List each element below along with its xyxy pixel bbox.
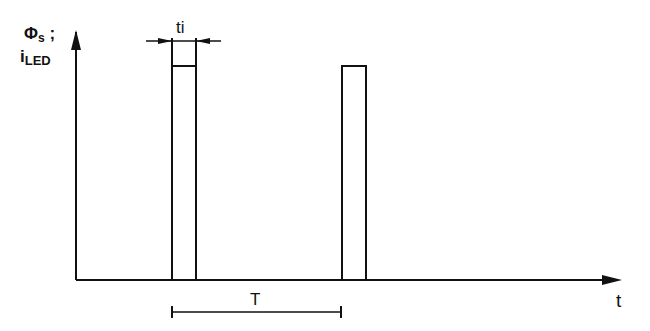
y-axis-label-current: iLED	[20, 47, 51, 67]
y-axis-label-flux: Φs ;	[24, 24, 55, 44]
x-axis-label: t	[616, 290, 621, 312]
pulse-timing-diagram	[0, 0, 650, 331]
pulse-width-label: ti	[176, 18, 185, 38]
current-subscript: LED	[25, 53, 51, 68]
separator: ;	[49, 24, 55, 43]
pulse-width-dimension	[146, 38, 221, 44]
pulse-2	[341, 66, 367, 280]
y-axis-arrow-icon	[71, 30, 81, 50]
y-axis	[71, 30, 81, 280]
period-label: T	[250, 290, 260, 310]
pulse-1	[172, 38, 196, 280]
dimension-arrow-right-icon	[158, 38, 172, 44]
dimension-arrow-left-icon	[196, 38, 210, 44]
phi-symbol: Φ	[24, 24, 38, 43]
flux-subscript: s	[38, 31, 45, 45]
x-axis-arrow-icon	[602, 275, 622, 285]
x-axis	[76, 275, 622, 285]
